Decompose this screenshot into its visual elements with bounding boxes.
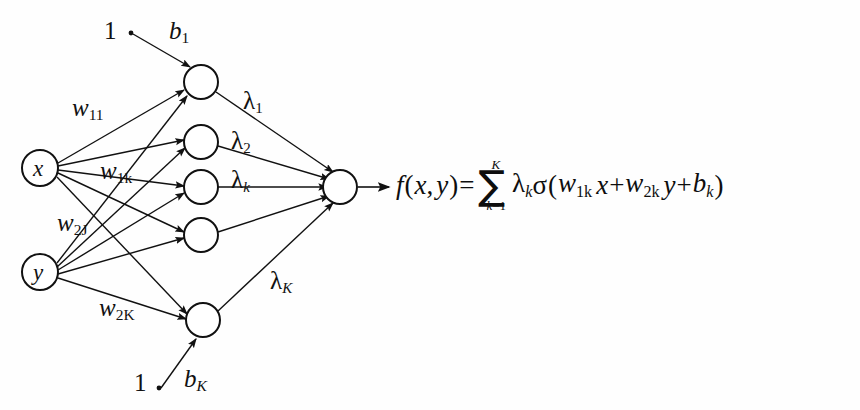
formula-w1k: w1k (558, 168, 592, 202)
lambda-label-k: λk (231, 167, 250, 195)
formula-var-x: x (596, 170, 608, 201)
weight-label-w1k: w1k (100, 158, 132, 186)
formula-plus-1: + (608, 170, 625, 201)
weight-label-w11: w11 (72, 95, 104, 123)
sigma-summation-icon: ∑ (478, 168, 505, 202)
input-node-x-label: x (33, 157, 43, 180)
edge-h4-out (218, 196, 329, 232)
lambda-label-1-sub: 1 (255, 100, 263, 116)
lambda-label-2-base: λ (231, 127, 243, 154)
lambda-label-k-base: λ (231, 166, 243, 193)
lambda-label-1: λ1 (243, 88, 263, 116)
formula-lambda-sub: k (525, 183, 532, 201)
lambda-label-K-base: λ (270, 267, 282, 294)
formula-bk-base: b (693, 168, 707, 198)
formula-fn-name: f (396, 170, 404, 201)
formula-w2k: w2k (625, 168, 659, 202)
lambda-label-K: λK (270, 268, 292, 296)
hidden-node-5 (186, 303, 220, 337)
formula-arg-y: y (436, 170, 448, 201)
bias-source-top-label: 1 (104, 18, 117, 43)
lambda-label-K-sub: K (282, 280, 292, 296)
neural-network-diagram: x y 1 1 b1 bK w11 w1k w2J w2K λ1 λ2 λk λ… (0, 0, 860, 410)
hidden-node-2 (184, 125, 218, 159)
bias-label-b1-base: b (169, 17, 182, 44)
formula-comma: , (427, 170, 437, 201)
network-output-formula: f ( x , y ) = K ∑ k=1 λk σ ( w1k x + w2k… (396, 158, 724, 212)
edge-x-h5 (57, 177, 187, 314)
formula-lambda-base: λ (512, 168, 525, 198)
formula-lambda: λk (512, 168, 532, 202)
lambda-label-1-base: λ (243, 87, 255, 114)
weight-label-w2j-sub: 2J (74, 221, 88, 238)
bias-label-b1: b1 (169, 18, 189, 46)
edge-y-h4 (58, 238, 184, 274)
hidden-node-4 (184, 218, 218, 252)
lambda-label-k-sub: k (243, 179, 250, 195)
weight-label-w2j: w2J (57, 210, 87, 238)
formula-equals: = (459, 170, 474, 201)
bias-label-bK: bK (184, 366, 207, 394)
formula-sigma-activation: σ (532, 170, 547, 201)
edges-from-y (57, 96, 187, 319)
formula-plus-2: + (676, 170, 693, 201)
bias-label-b1-sub: 1 (182, 29, 190, 46)
formula-bk-sub: k (706, 183, 713, 201)
hidden-node-3 (184, 170, 218, 204)
formula-arg-x: x (415, 170, 427, 201)
formula-w2k-base: w (625, 168, 643, 198)
bias-label-bK-sub: K (197, 377, 207, 394)
weight-label-w11-base: w (72, 94, 89, 121)
formula-w1k-sub: 1k (576, 183, 592, 201)
formula-sum-lower-eq: =1 (492, 198, 506, 213)
bias-dot-bottom (157, 386, 162, 391)
weight-label-w1k-base: w (100, 157, 117, 184)
hidden-node-1 (184, 65, 218, 99)
formula-w2k-sub: 2k (643, 183, 659, 201)
weight-label-w11-sub: 11 (89, 106, 104, 123)
weight-label-w2j-base: w (57, 209, 74, 236)
weight-label-w2K: w2K (99, 295, 135, 323)
formula-inner-open-paren: ( (547, 170, 558, 201)
lambda-label-2: λ2 (231, 128, 251, 156)
bias-dot-top (129, 31, 134, 36)
formula-summation: K ∑ k=1 (477, 158, 506, 212)
formula-inner-close-paren: ) (713, 170, 724, 201)
formula-w1k-base: w (558, 168, 576, 198)
formula-sum-lower-limit: k=1 (486, 199, 506, 212)
formula-close-paren: ) (448, 170, 459, 201)
output-node (323, 170, 357, 204)
weight-label-w1k-sub: 1k (117, 169, 133, 186)
lambda-label-2-sub: 2 (243, 140, 251, 156)
formula-var-y: y (664, 170, 676, 201)
input-node-y-label: y (33, 261, 43, 284)
edges-from-x (57, 90, 187, 314)
weight-label-w2K-base: w (99, 294, 116, 321)
bias-source-bottom-label: 1 (134, 370, 147, 395)
bias-label-bK-base: b (184, 365, 197, 392)
formula-open-paren: ( (404, 170, 415, 201)
weight-label-w2K-sub: 2K (116, 306, 135, 323)
formula-bk: bk (693, 168, 714, 202)
